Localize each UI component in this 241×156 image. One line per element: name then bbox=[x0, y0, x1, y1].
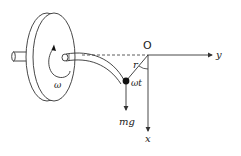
radius-label: r bbox=[133, 59, 139, 70]
origin-label: O bbox=[143, 39, 152, 52]
point-mass bbox=[123, 78, 130, 85]
omega-label: ω bbox=[54, 80, 62, 90]
diagram-canvas: O y x r ωt ω mg bbox=[0, 0, 241, 156]
angle-arc bbox=[139, 66, 148, 69]
y-axis-label: y bbox=[215, 49, 222, 60]
angle-label: ωt bbox=[131, 78, 142, 88]
weight-label: mg bbox=[119, 116, 135, 127]
x-axis-label: x bbox=[145, 133, 151, 144]
